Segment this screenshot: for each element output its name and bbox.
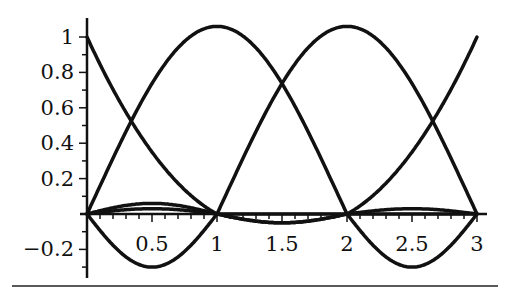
- x-tick-label: 2: [340, 232, 353, 256]
- y-tick-label: 0.8: [41, 60, 74, 84]
- y-tick-label: −0.2: [23, 237, 74, 261]
- curve-1-line: [87, 37, 477, 223]
- x-tick-label: 1: [210, 232, 223, 256]
- y-tick-label: 0.4: [41, 131, 74, 155]
- chart: 0.511.522.53−0.20.20.40.60.81: [0, 0, 510, 293]
- x-tick-label: 0.5: [135, 232, 168, 256]
- x-tick-label: 2.5: [395, 232, 428, 256]
- y-tick-label: 1: [61, 25, 74, 49]
- x-tick-label: 3: [470, 232, 483, 256]
- y-tick-label: 0.2: [41, 167, 74, 191]
- curves: [87, 26, 477, 267]
- curve-3-line: [87, 26, 477, 267]
- curve-2-line: [87, 26, 477, 267]
- y-tick-label: 0.6: [41, 96, 74, 120]
- curve-4-line: [87, 37, 477, 223]
- x-tick-label: 1.5: [265, 232, 298, 256]
- tick-labels: 0.511.522.53−0.20.20.40.60.81: [23, 25, 484, 261]
